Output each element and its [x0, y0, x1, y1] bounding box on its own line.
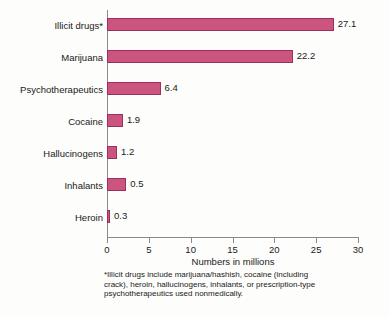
bar-chart-figure: Illicit drugs*MarijuanaPsychotherapeutic… — [0, 0, 390, 317]
bar — [107, 82, 161, 95]
tick-mark — [274, 238, 275, 243]
tick-mark — [358, 238, 359, 243]
category-label: Psychotherapeutics — [20, 83, 103, 96]
tick-mark — [191, 238, 192, 243]
bar — [107, 18, 334, 31]
bar-row: 0.5 — [107, 178, 358, 210]
category-axis-labels: Illicit drugs*MarijuanaPsychotherapeutic… — [0, 10, 103, 237]
category-label: Hallucinogens — [43, 147, 103, 160]
tick-label: 20 — [269, 244, 280, 256]
tick-label: 25 — [311, 244, 322, 256]
category-label: Cocaine — [68, 115, 103, 128]
footnote-line: psychotherapeutics used nonmedically. — [104, 289, 388, 299]
tick-mark — [107, 238, 108, 243]
bar-row: 1.2 — [107, 146, 358, 178]
bar — [107, 178, 126, 191]
category-label: Inhalants — [64, 179, 103, 192]
chart-footnote: *Illicit drugs include marijuana/hashish… — [104, 270, 388, 299]
tick-label: 30 — [353, 244, 364, 256]
tick-mark — [316, 238, 317, 243]
footnote-line: *Illicit drugs include marijuana/hashish… — [104, 270, 388, 280]
bar-row: 22.2 — [107, 50, 358, 82]
bar-row: 27.1 — [107, 18, 358, 50]
tick-label: 5 — [146, 244, 151, 256]
bar — [107, 114, 123, 127]
tick-label: 15 — [227, 244, 238, 256]
bar-value-label: 1.9 — [127, 113, 140, 127]
tick-mark — [233, 238, 234, 243]
bar-value-label: 6.4 — [165, 81, 178, 95]
bar-value-label: 22.2 — [297, 49, 316, 63]
category-label: Heroin — [75, 211, 103, 224]
bar-value-label: 1.2 — [121, 145, 134, 159]
tick-mark — [149, 238, 150, 243]
category-label: Marijuana — [61, 51, 103, 64]
bar-value-label: 27.1 — [338, 17, 357, 31]
tick-label: 0 — [104, 244, 109, 256]
bar — [107, 210, 110, 223]
tick-label: 10 — [185, 244, 196, 256]
bar-value-label: 0.3 — [114, 209, 127, 223]
footnote-line: crack), heroin, hallucinogens, inhalants… — [104, 280, 388, 290]
bar-row: 1.9 — [107, 114, 358, 146]
bar — [107, 50, 293, 63]
plot-area: 27.122.26.41.91.20.50.3 — [107, 10, 358, 237]
bar-row: 6.4 — [107, 82, 358, 114]
x-axis-title: Numbers in millions — [107, 256, 359, 268]
bar-value-label: 0.5 — [130, 177, 143, 191]
category-label: Illicit drugs* — [54, 19, 103, 32]
bar — [107, 146, 117, 159]
